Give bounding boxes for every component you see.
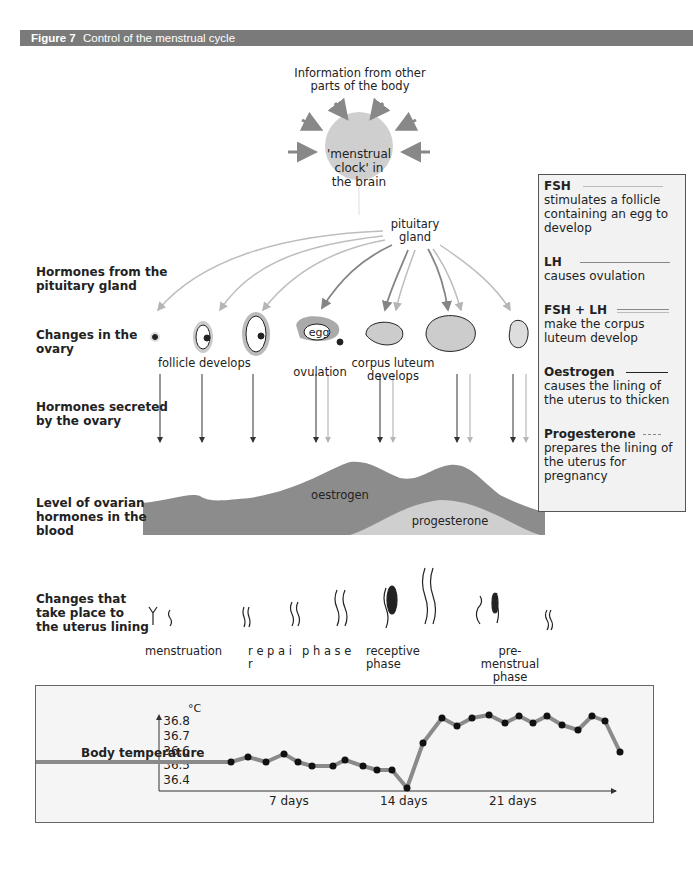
legend-name: Progesterone <box>544 427 636 441</box>
row-label-ovary-changes: Changes in the ovary <box>36 328 137 356</box>
premenstrual-label: pre-menstrual phase <box>470 645 550 684</box>
legend-item-fsh-lh: FSH + LH make the corpus luteum develop <box>544 303 680 345</box>
menstrual-clock-label: 'menstrual clock' in the brain <box>318 147 400 189</box>
receptive-phase-label: receptive phase <box>366 645 456 671</box>
menstruation-label: menstruation <box>145 645 225 658</box>
row-label-line: by the ovary <box>36 414 168 428</box>
legend-desc: prepares the lining of the uterus for pr… <box>544 441 680 483</box>
legend-name: Oestrogen <box>544 365 615 379</box>
uterus-lining-icons <box>149 568 553 630</box>
legend-item-lh: LH causes ovulation <box>544 255 680 283</box>
oestrogen-label: oestrogen <box>300 489 380 502</box>
x-tick-14: 14 days <box>380 794 427 808</box>
pituitary-line2: gland <box>375 231 455 244</box>
row-label-uterus-changes: Changes that take place to the uterus li… <box>36 592 149 634</box>
row-label-line: Changes that <box>36 592 149 606</box>
row-label-pituitary-hormones: Hormones from the pituitary gland <box>36 265 167 293</box>
progesterone-arrow-icon <box>643 434 661 435</box>
x-tick-21: 21 days <box>489 794 536 808</box>
repair-label: r e p a i r <box>248 645 298 671</box>
ovary-hormone-arrows <box>160 374 526 442</box>
oestrogen-arrow-icon <box>626 372 668 373</box>
clock-line3: the brain <box>318 175 400 189</box>
row-label-line: the uterus lining <box>36 620 149 634</box>
row-label-blood-levels: Level of ovarian hormones in the blood <box>36 496 147 538</box>
legend-desc: causes ovulation <box>544 269 680 283</box>
corpus-luteum-label: corpus luteum develops <box>348 357 438 383</box>
legend-desc: causes the lining of the uterus to thick… <box>544 379 680 407</box>
legend-desc: stimulates a follicle containing an egg … <box>544 193 680 235</box>
legend-item-oestrogen: Oestrogen causes the lining of the uteru… <box>544 365 680 407</box>
fsh-arrow-icon <box>583 186 663 187</box>
legend-item-progesterone: Progesterone prepares the lining of the … <box>544 427 680 483</box>
lh-arrow-icon <box>580 262 670 263</box>
body-temperature-chart: Body temperature °C 36.8 36.7 36.6 36.5 … <box>35 685 654 823</box>
legend-name: FSH <box>544 179 571 193</box>
row-label-line: Hormones from the <box>36 265 167 279</box>
hormone-legend: FSH stimulates a follicle containing an … <box>538 174 686 512</box>
row-label-line: Changes in the <box>36 328 137 342</box>
row-label-line: hormones in the <box>36 510 147 524</box>
temperature-points <box>228 712 624 792</box>
pituitary-gland-label: pituitary gland <box>375 218 455 244</box>
legend-desc: make the corpus luteum develop <box>544 317 680 345</box>
temperature-plot <box>36 686 655 824</box>
progesterone-label: progesterone <box>405 515 495 528</box>
premenstrual-line1: pre-menstrual <box>470 645 550 671</box>
pituitary-hormone-arrows <box>158 231 510 310</box>
ovary-stage-icons <box>150 312 528 356</box>
row-label-line: ovary <box>36 342 137 356</box>
x-tick-7: 7 days <box>269 794 309 808</box>
phase-label: p h a s e <box>302 645 352 658</box>
fsh-lh-arrow-icon <box>617 309 669 313</box>
ovulation-label: ovulation <box>290 366 350 379</box>
legend-item-fsh: FSH stimulates a follicle containing an … <box>544 179 680 235</box>
egg-label: egg <box>306 326 332 339</box>
legend-name: LH <box>544 255 562 269</box>
row-label-line: Level of ovarian <box>36 496 147 510</box>
clock-line1: 'menstrual <box>318 147 400 161</box>
row-label-line: take place to <box>36 606 149 620</box>
row-label-line: Hormones secreted <box>36 400 168 414</box>
row-label-line: blood <box>36 524 147 538</box>
premenstrual-line2: phase <box>470 671 550 684</box>
clock-line2: clock' in <box>318 161 400 175</box>
legend-name: FSH + LH <box>544 303 607 317</box>
row-label-ovary-hormones: Hormones secreted by the ovary <box>36 400 168 428</box>
row-label-line: pituitary gland <box>36 279 167 293</box>
corpus-line2: develops <box>348 370 438 383</box>
follicle-develops-label: follicle develops <box>158 357 278 370</box>
